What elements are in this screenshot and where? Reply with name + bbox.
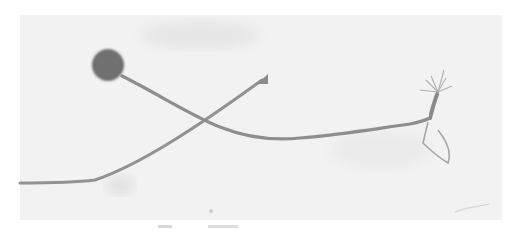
faint-mark: [158, 225, 172, 228]
background-smudge: [106, 175, 134, 195]
faint-mark: [208, 225, 238, 228]
background-smudge: [140, 21, 260, 49]
sporangium-head: [92, 49, 124, 81]
background-smudge: [330, 132, 430, 168]
speck: [209, 209, 213, 213]
photo-canvas: [0, 0, 519, 236]
photograph: [0, 0, 519, 236]
